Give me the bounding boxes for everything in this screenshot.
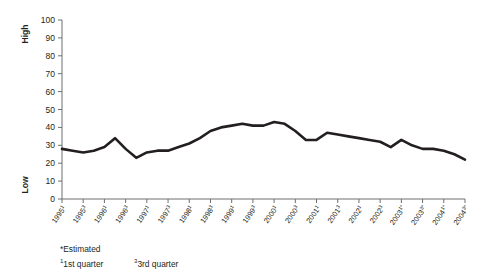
footnote-q1: 11st quarter: [60, 255, 103, 270]
x-axis-tick-label: 20043*: [451, 204, 471, 227]
svg-text:19961: 19961: [92, 204, 111, 225]
svg-text:20021: 20021: [346, 204, 365, 225]
svg-text:19983: 19983: [198, 204, 217, 225]
y-axis-tick-label: 60: [46, 87, 56, 97]
svg-text:19971: 19971: [134, 204, 153, 225]
x-axis-tick-label: 19981: [176, 204, 195, 225]
x-axis-tick-label: 20001: [261, 204, 280, 225]
svg-text:20023: 20023: [367, 204, 386, 225]
footnote-q3: 33rd quarter: [134, 255, 178, 270]
y-axis-tick-label: 80: [46, 51, 56, 61]
x-axis-tick-label: 20011: [304, 204, 323, 225]
axis-titles: HighLow: [20, 24, 30, 193]
x-axis-tick-label: 19983: [198, 204, 217, 225]
data-series: [62, 122, 465, 160]
y-axis-low-label: Low: [20, 176, 30, 193]
x-axis-tick-label: 19963: [113, 204, 132, 225]
x-axis-tick-label: 20033*: [409, 204, 429, 227]
x-axis-tick-label: 19993: [240, 204, 259, 225]
svg-text:19981: 19981: [176, 204, 195, 225]
x-axis-tick-label: 20021: [346, 204, 365, 225]
footnote-q3-label: 3rd quarter: [137, 259, 178, 269]
svg-text:20033*: 20033*: [409, 204, 429, 227]
x-axis-tick-label: 19971: [134, 204, 153, 225]
svg-text:19963: 19963: [113, 204, 132, 225]
y-axis-tick-label: 100: [41, 15, 55, 25]
x-axis-tick-label: 19953: [70, 204, 89, 225]
x-axis-tick-label: 20041*: [430, 204, 450, 227]
svg-text:20011: 20011: [304, 204, 323, 225]
data-line: [62, 122, 465, 160]
footnote-estimated: *Estimated: [60, 243, 178, 255]
svg-text:20043*: 20043*: [451, 204, 471, 227]
svg-text:20001: 20001: [261, 204, 280, 225]
svg-text:19951: 19951: [49, 204, 68, 225]
chart-plot-area: 0102030405060708090100 19951199531996119…: [0, 0, 501, 240]
y-axis-tick-label: 10: [46, 176, 56, 186]
x-axis: 1995119953199611996319971199731998119983…: [49, 199, 471, 227]
y-axis-tick-label: 40: [46, 122, 56, 132]
y-axis-tick-label: 70: [46, 69, 56, 79]
x-axis-tick-label: 19973: [155, 204, 174, 225]
line-chart: 0102030405060708090100 19951199531996119…: [0, 0, 501, 280]
y-axis-tick-label: 30: [46, 140, 56, 150]
svg-text:20041*: 20041*: [430, 204, 450, 227]
svg-text:19973: 19973: [155, 204, 174, 225]
svg-text:20013: 20013: [325, 204, 344, 225]
x-axis-tick-label: 20031*: [387, 204, 407, 227]
y-axis-tick-label: 90: [46, 33, 56, 43]
svg-text:20003: 20003: [282, 204, 301, 225]
x-axis-tick-label: 19991: [219, 204, 238, 225]
svg-text:19993: 19993: [240, 204, 259, 225]
footnote-quarters: 11st quarter 33rd quarter: [60, 255, 178, 270]
x-axis-tick-label: 19961: [92, 204, 111, 225]
svg-text:19953: 19953: [70, 204, 89, 225]
footnote-q1-label: 1st quarter: [63, 259, 103, 269]
y-axis: 0102030405060708090100: [41, 15, 62, 204]
svg-text:20031*: 20031*: [387, 204, 407, 227]
y-axis-tick-label: 20: [46, 158, 56, 168]
y-axis-high-label: High: [20, 24, 30, 43]
x-axis-tick-label: 20013: [325, 204, 344, 225]
x-axis-tick-label: 20003: [282, 204, 301, 225]
footnote-block: *Estimated 11st quarter 33rd quarter: [60, 243, 178, 270]
svg-text:19991: 19991: [219, 204, 238, 225]
y-axis-tick-label: 50: [46, 105, 56, 115]
x-axis-tick-label: 19951: [49, 204, 68, 225]
y-axis-tick-label: 0: [50, 194, 55, 204]
x-axis-tick-label: 20023: [367, 204, 386, 225]
